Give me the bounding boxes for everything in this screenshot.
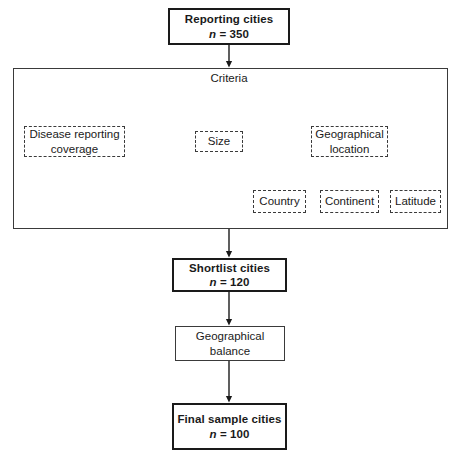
n-symbol: n [209, 28, 216, 40]
n-symbol: n [209, 428, 216, 440]
node-reporting-cities-label: Reporting cities [185, 12, 274, 26]
node-reporting-cities: Reporting cities n = 350 [168, 8, 290, 45]
node-continent: Continent [320, 190, 379, 213]
node-final-sample-cities: Final sample cities n = 100 [172, 403, 287, 450]
node-final-sample-cities-label: Final sample cities [177, 412, 281, 426]
n-value: = 100 [220, 428, 250, 440]
criteria-group-label: Criteria [179, 72, 279, 84]
node-shortlist-cities-label: Shortlist cities [189, 261, 270, 275]
node-shortlist-cities-count: n = 120 [209, 275, 249, 289]
node-disease-reporting-coverage: Disease reporting coverage [24, 126, 125, 157]
flowchart-canvas: Reporting cities n = 350 Criteria Diseas… [0, 0, 459, 459]
node-geographical-balance: Geographical balance [175, 326, 285, 361]
n-symbol: n [209, 276, 216, 288]
node-size: Size [195, 131, 243, 152]
node-shortlist-cities: Shortlist cities n = 120 [172, 258, 287, 292]
node-latitude: Latitude [390, 190, 441, 213]
node-reporting-cities-count: n = 350 [209, 27, 249, 41]
node-geographical-location: Geographical location [311, 126, 388, 157]
n-value: = 120 [220, 276, 250, 288]
node-final-sample-cities-count: n = 100 [209, 427, 249, 441]
node-country: Country [253, 190, 306, 213]
n-value: = 350 [219, 28, 249, 40]
